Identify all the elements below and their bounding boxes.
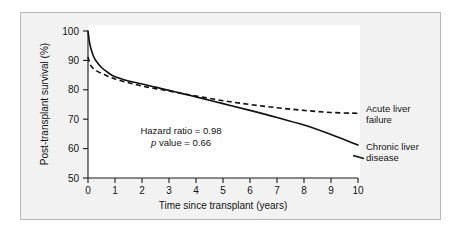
y-tick-label-80: 80 (68, 84, 80, 95)
x-tick-label-5: 5 (220, 185, 226, 196)
series-label-acute-line2: failure (366, 114, 392, 125)
series-label-acute-line1: Acute liver (366, 103, 410, 114)
x-tick-label-1: 1 (112, 185, 118, 196)
x-axis-ticks (88, 178, 358, 183)
x-axis-title: Time since transplant (years) (159, 200, 288, 211)
x-tick-label-4: 4 (193, 185, 199, 196)
x-tick-label-3: 3 (166, 185, 172, 196)
y-tick-label-60: 60 (68, 143, 80, 154)
y-tick-label-90: 90 (68, 55, 80, 66)
y-axis-ticks (83, 31, 88, 178)
x-tick-label-7: 7 (274, 185, 280, 196)
x-tick-label-10: 10 (352, 185, 364, 196)
survival-chart: 100 90 80 70 60 50 0 1 2 3 4 5 6 7 8 9 1… (0, 0, 463, 234)
y-tick-label-100: 100 (62, 26, 79, 37)
x-tick-label-2: 2 (139, 185, 145, 196)
x-tick-label-0: 0 (85, 185, 91, 196)
annotation-hazard-ratio: Hazard ratio = 0.98 (140, 125, 221, 136)
plot-panel (88, 25, 360, 178)
annotation-p-value-text: value = 0.66 (156, 137, 211, 148)
series-label-chronic-line1: Chronic liver (366, 141, 419, 152)
x-tick-label-8: 8 (301, 185, 307, 196)
x-tick-label-9: 9 (328, 185, 334, 196)
annotation-p-value: p value = 0.66 (150, 137, 211, 148)
y-tick-label-50: 50 (68, 173, 80, 184)
y-tick-label-70: 70 (68, 114, 80, 125)
y-axis-title: Post-transplant survival (%) (39, 43, 50, 165)
x-tick-label-6: 6 (247, 185, 253, 196)
series-label-chronic-line2: disease (366, 152, 399, 163)
